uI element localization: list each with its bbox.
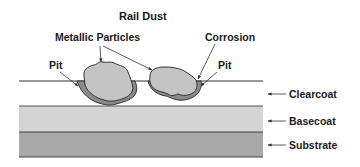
arrow-pit-left: [60, 72, 78, 86]
arrow-corrosion: [198, 44, 215, 79]
title-rail-dust: Rail Dust: [119, 10, 167, 22]
substrate-layer: [19, 132, 263, 157]
arrow-pit-right: [201, 72, 217, 86]
label-corrosion: Corrosion: [205, 31, 255, 43]
label-clearcoat: Clearcoat: [289, 88, 337, 100]
label-basecoat: Basecoat: [289, 115, 336, 127]
label-substrate: Substrate: [289, 139, 338, 151]
rail-dust-diagram: Rail Dust Metallic Particles Corrosion P…: [0, 0, 360, 167]
label-metallic-particles: Metallic Particles: [55, 31, 140, 43]
arrow-particles-to-left: [100, 46, 101, 62]
basecoat-layer: [19, 106, 263, 132]
label-pit-left: Pit: [49, 59, 63, 71]
label-pit-right: Pit: [218, 59, 232, 71]
